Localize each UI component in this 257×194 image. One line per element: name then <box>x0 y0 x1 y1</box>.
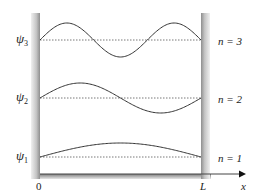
x-axis-label: x <box>241 180 246 192</box>
wavefunction-n1 <box>40 143 201 157</box>
psi-2-label: ψ2 <box>16 91 28 108</box>
particle-in-box-diagram: ψ3 ψ2 ψ1 n = 3 n = 2 n = 1 0 L x <box>0 0 257 194</box>
wall-L-label: L <box>200 180 206 192</box>
box-floor <box>31 174 211 179</box>
n-3-label: n = 3 <box>218 35 242 47</box>
wavefunction-curves <box>40 23 201 157</box>
x-axis-arrowhead <box>239 171 246 178</box>
origin-label: 0 <box>36 180 42 192</box>
right-wall <box>201 13 210 179</box>
n-1-label: n = 1 <box>218 152 242 164</box>
psi-1-label: ψ1 <box>16 150 28 167</box>
left-wall <box>31 13 40 179</box>
psi-3-label: ψ3 <box>16 33 28 50</box>
n-2-label: n = 2 <box>218 93 242 105</box>
